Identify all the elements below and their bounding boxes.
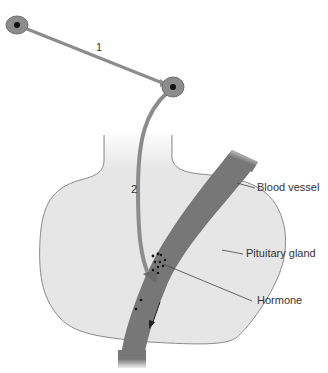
- label-neuron-1: 1: [96, 41, 102, 53]
- label-pituitary-gland: Pituitary gland: [246, 247, 316, 259]
- label-neuron-2: 2: [131, 183, 137, 195]
- label-blood-vessel: Blood vessel: [257, 181, 319, 193]
- label-hormone: Hormone: [257, 294, 302, 306]
- neuron-1: [6, 16, 167, 87]
- nucleus-icon: [14, 22, 20, 28]
- diagram-canvas: 1 2 Blood vessel Pituitary gland Hormone: [0, 0, 328, 373]
- nucleus-icon: [170, 84, 176, 90]
